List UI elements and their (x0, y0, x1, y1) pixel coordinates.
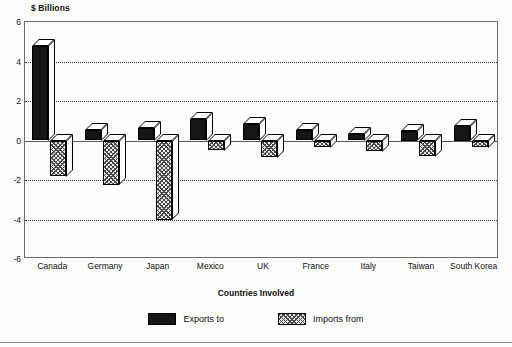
bar-exports-germany (85, 130, 101, 141)
gridline (25, 180, 497, 181)
bar-front-face (296, 130, 312, 141)
x-axis-tick-label: Germany (88, 261, 123, 271)
bar-front-face (243, 124, 259, 141)
bar-side-face (66, 134, 73, 177)
x-axis-tick-label: Italy (361, 261, 377, 271)
bar-front-face (190, 119, 206, 141)
y-axis-tick-label: 4 (16, 57, 21, 67)
bar-imports-south-korea (472, 141, 488, 148)
bar-imports-canada (50, 141, 66, 177)
x-axis-tick-label: Canada (37, 261, 67, 271)
bar-imports-italy (366, 141, 382, 152)
bar-exports-mexico (190, 119, 206, 141)
bar-front-face (50, 141, 66, 177)
gridline (25, 62, 497, 63)
plot-area: 6420-2-4-6 (24, 21, 498, 258)
legend-swatch-exports-icon (148, 313, 176, 325)
legend-item-exports: Exports to (148, 313, 224, 325)
bar-front-face (419, 141, 435, 157)
bar-front-face (348, 134, 364, 141)
x-axis-tick-label: France (302, 261, 328, 271)
bar-imports-france (314, 141, 330, 148)
x-axis-tick-label: Mexico (197, 261, 224, 271)
legend-item-imports: Imports from (278, 313, 364, 325)
x-axis-tick-label: Taiwan (408, 261, 434, 271)
legend-label-exports: Exports to (183, 314, 224, 324)
bar-side-face (119, 134, 126, 185)
y-axis-tick-label: -2 (13, 175, 21, 185)
bar-front-face (454, 126, 470, 141)
x-axis-tick-label: South Korea (450, 261, 497, 271)
y-axis-tick-label: -4 (13, 215, 21, 225)
bar-exports-uk (243, 124, 259, 141)
gridline (25, 220, 497, 221)
bar-front-face (261, 141, 277, 158)
bar-front-face (156, 141, 172, 220)
bar-exports-canada (32, 46, 48, 141)
bar-front-face (472, 141, 488, 148)
bar-front-face (208, 141, 224, 151)
bar-imports-uk (261, 141, 277, 158)
legend-swatch-imports-icon (278, 313, 306, 325)
legend-label-imports: Imports from (313, 314, 364, 324)
bar-exports-italy (348, 134, 364, 141)
y-axis-tick-label: -6 (13, 254, 21, 264)
y-axis-unit-label: $ Billions (31, 3, 70, 13)
x-axis-tick-label: UK (257, 261, 269, 271)
gridline (25, 101, 497, 102)
bar-front-face (138, 128, 154, 141)
plot-inner: 6420-2-4-6 (25, 22, 497, 257)
bar-front-face (32, 46, 48, 141)
y-axis-tick-label: 6 (16, 17, 21, 27)
bar-front-face (103, 141, 119, 185)
bar-side-face (172, 134, 179, 220)
bar-front-face (85, 130, 101, 141)
bar-imports-mexico (208, 141, 224, 151)
bar-side-face (48, 39, 55, 141)
bar-front-face (366, 141, 382, 152)
bar-exports-japan (138, 128, 154, 141)
chart-root: $ Billions 6420-2-4-6 CanadaGermanyJapan… (0, 0, 512, 347)
bar-imports-germany (103, 141, 119, 185)
bar-exports-taiwan (401, 131, 417, 141)
bar-exports-south-korea (454, 126, 470, 141)
bar-front-face (314, 141, 330, 148)
x-axis-title: Countries Involved (0, 288, 512, 298)
bar-imports-taiwan (419, 141, 435, 157)
y-axis-tick-label: 2 (16, 96, 21, 106)
footer-divider (0, 342, 512, 343)
chart-legend: Exports to Imports from (0, 313, 512, 325)
bar-imports-japan (156, 141, 172, 220)
x-axis-tick-label: Japan (146, 261, 169, 271)
y-axis-tick-label: 0 (16, 136, 21, 146)
bar-front-face (401, 131, 417, 141)
bar-exports-france (296, 130, 312, 141)
